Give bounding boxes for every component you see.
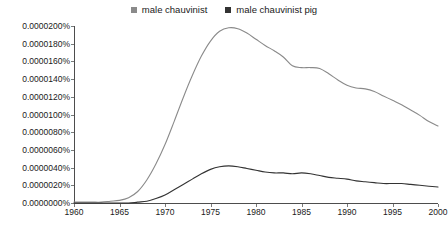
ngram-chart: male chauvinistmale chauvinist pig 0.000…	[0, 0, 448, 234]
series-plot-area	[0, 0, 448, 234]
series-line[interactable]	[74, 28, 438, 203]
